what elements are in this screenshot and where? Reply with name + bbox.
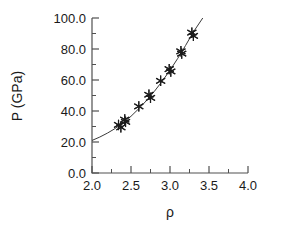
y-tick-label: 60.0 [61, 73, 86, 88]
x-axis-ticks [92, 166, 248, 173]
y-axis-tick-labels: 0.020.040.060.080.0100.0 [53, 11, 86, 181]
y-tick-label: 20.0 [61, 135, 86, 150]
chart-svg: 0.020.040.060.080.0100.0 2.02.53.03.54.0… [0, 0, 301, 228]
y-tick-label: 40.0 [61, 104, 86, 119]
x-axis-tick-labels: 2.02.53.03.54.0 [83, 178, 257, 193]
x-tick-label: 4.0 [239, 178, 257, 193]
y-axis-title: P (GPa) [9, 71, 25, 121]
y-tick-label: 100.0 [53, 11, 86, 26]
data-markers [114, 28, 198, 133]
axis-lines [92, 18, 248, 173]
data-point-marker [156, 76, 165, 86]
x-tick-label: 3.5 [200, 178, 218, 193]
x-tick-label: 2.0 [83, 178, 101, 193]
fitted-curve [92, 18, 203, 140]
chart-figure: 0.020.040.060.080.0100.0 2.02.53.03.54.0… [0, 0, 301, 228]
y-tick-label: 80.0 [61, 42, 86, 57]
y-axis-ticks [92, 18, 99, 173]
x-tick-label: 2.5 [122, 178, 140, 193]
x-axis-title: ρ [166, 204, 174, 220]
data-point-marker [134, 101, 143, 111]
x-tick-label: 3.0 [161, 178, 179, 193]
plot-frame [92, 18, 248, 173]
